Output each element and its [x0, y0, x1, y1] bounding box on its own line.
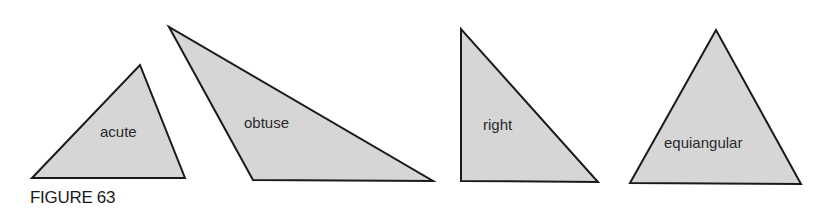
right-triangle: right: [461, 29, 598, 182]
triangle-diagram: acute obtuse right equiangular: [0, 0, 827, 217]
figure-caption: FIGURE 63: [30, 188, 115, 208]
acute-triangle: acute: [32, 65, 185, 178]
acute-label: acute: [100, 123, 137, 140]
obtuse-triangle: obtuse: [169, 27, 433, 181]
equiangular-label: equiangular: [664, 134, 742, 151]
obtuse-label: obtuse: [244, 114, 289, 131]
equiangular-triangle: equiangular: [630, 30, 801, 184]
right-label: right: [483, 116, 513, 133]
